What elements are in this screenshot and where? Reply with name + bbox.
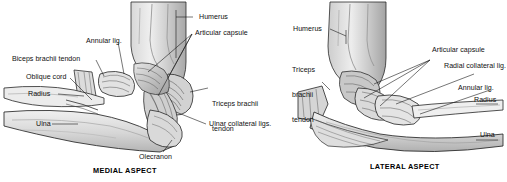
label-lateral-triceps-brachii-tendon: Triceps brachii tendon [292,49,315,141]
label-medial-articular-capsule: Articular capsule [195,29,248,37]
label-lateral-triceps-line2: brachii [292,91,315,99]
label-lateral-radial-collateral-lig: Radial collateral lig. [444,62,506,70]
label-medial-ulna: Ulna [36,120,51,128]
label-medial-humerus: Humerus [199,13,228,21]
caption-medial-aspect: MEDIAL ASPECT [93,166,157,175]
panel-lateral-aspect: Humerus Triceps brachii tendon Articular… [254,0,507,182]
label-lateral-triceps-line1: Triceps [292,66,315,74]
leader-triceps [190,88,208,92]
label-medial-radius: Radius [28,90,50,98]
label-lateral-humerus: Humerus [293,25,322,33]
label-lateral-ulna: Ulna [480,131,495,139]
panel-medial-aspect: Humerus Articular capsule Annular lig. B… [0,0,254,182]
label-medial-biceps-brachii-tendon: Biceps brachii tendon [12,55,80,63]
label-medial-olecranon: Olecranon [139,153,172,161]
leader-ucl [176,112,206,124]
anatomical-figure: Humerus Articular capsule Annular lig. B… [0,0,507,182]
leader-annular [118,42,124,74]
caption-lateral-aspect: LATERAL ASPECT [370,162,440,171]
label-medial-annular-lig: Annular lig. [86,37,122,45]
lateral-forearm-musculature [310,118,388,147]
label-lateral-annular-lig: Annular lig. [458,84,494,92]
label-medial-oblique-cord: Oblique cord [26,73,66,81]
label-lateral-triceps-line3: tendon [292,116,315,124]
label-medial-triceps-line1: Triceps brachii [212,100,258,108]
label-medial-triceps-brachii-tendon: Triceps brachii tendon [212,83,258,150]
label-lateral-radius: Radius [474,96,496,104]
label-lateral-articular-capsule: Articular capsule [432,46,485,54]
